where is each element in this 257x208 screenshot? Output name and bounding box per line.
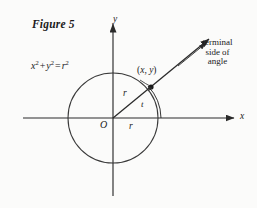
angle-label: t — [141, 100, 144, 110]
y-axis-label: y — [113, 14, 117, 24]
origin-label: O — [100, 120, 107, 131]
figure-canvas: Figure 5 x2+y2=r2 y x O (x, y) r r t ter… — [0, 0, 257, 208]
point-coordinates-label: (x, y) — [137, 65, 157, 75]
circle-equation: x2+y2=r2 — [31, 59, 69, 72]
x-axis-label: x — [240, 111, 244, 121]
equation-equals: = — [54, 60, 62, 71]
terminal-side-annotation: terminal side of angle — [180, 38, 255, 67]
equation-r-exponent: 2 — [66, 59, 69, 66]
paren-close: ) — [153, 65, 156, 75]
radius-label-on-axis: r — [129, 121, 133, 131]
annotation-line-3: angle — [180, 57, 255, 67]
radius-label-on-ray: r — [123, 88, 127, 98]
coordinate-diagram — [0, 0, 257, 208]
figure-title: Figure 5 — [32, 18, 75, 30]
